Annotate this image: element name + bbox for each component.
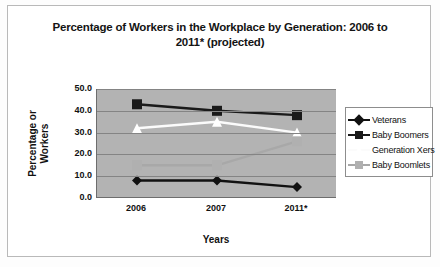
chart-legend: VeteransBaby BoomersGeneration XersBaby … — [345, 107, 433, 177]
legend-label: Baby Boomlets — [372, 160, 430, 170]
legend-item-baby-boomlets[interactable]: Baby Boomlets — [348, 157, 429, 172]
y-axis-title-line-1: Percentage or — [27, 96, 39, 192]
y-axis-tick-label: 30.0 — [56, 127, 92, 137]
x-axis-tick-labels: 200620072011* — [96, 203, 336, 219]
y-axis-tick-labels: 50.040.030.020.010.00.0 — [52, 89, 92, 198]
legend-item-veterans[interactable]: Veterans — [348, 112, 429, 127]
y-axis-tick-label: 10.0 — [56, 170, 92, 180]
series-veterans — [132, 176, 302, 193]
chart-title-line-1: Percentage of Workers in the Workplace b… — [42, 20, 398, 35]
y-axis-title-wrap: Percentage or Workers — [24, 98, 52, 194]
x-axis-tick-label: 2006 — [106, 203, 166, 213]
plot-area — [96, 89, 336, 198]
legend-item-generation-xers[interactable]: Generation Xers — [348, 142, 429, 157]
x-axis-title: Years — [96, 234, 336, 245]
data-point-marker — [132, 160, 142, 170]
gridline — [97, 89, 336, 90]
legend-symbol — [355, 131, 363, 139]
chart-title: Percentage of Workers in the Workplace b… — [42, 20, 398, 50]
gridline — [97, 111, 336, 112]
data-point-marker — [212, 160, 222, 170]
legend-label: Veterans — [372, 115, 406, 125]
gridline — [97, 176, 336, 177]
legend-marker-icon — [348, 114, 370, 125]
data-point-marker — [292, 182, 302, 192]
legend-marker-icon — [348, 159, 370, 170]
chart-frame: Percentage of Workers in the Workplace b… — [7, 5, 431, 257]
data-point-marker — [132, 99, 142, 109]
y-axis-tick-label: 20.0 — [56, 148, 92, 158]
x-axis-tick-label: 2007 — [186, 203, 246, 213]
series-baby-boomlets — [132, 136, 302, 170]
legend-label: Baby Boomers — [372, 130, 429, 140]
data-point-marker — [292, 136, 302, 146]
chart-title-line-2: 2011* (projected) — [42, 35, 398, 50]
legend-label: Generation Xers — [372, 145, 435, 155]
y-axis-tick-label: 0.0 — [56, 192, 92, 202]
series-layer — [97, 89, 337, 198]
y-axis-title-line-2: Workers — [38, 96, 50, 192]
legend-symbol — [353, 114, 364, 125]
legend-symbol — [355, 146, 363, 154]
gridline — [97, 154, 336, 155]
x-axis-tick-label: 2011* — [266, 203, 326, 213]
y-axis-tick-label: 50.0 — [56, 83, 92, 93]
legend-marker-icon — [348, 129, 370, 140]
legend-item-baby-boomers[interactable]: Baby Boomers — [348, 127, 429, 142]
y-axis-tick-label: 40.0 — [56, 105, 92, 115]
chart-page: Percentage of Workers in the Workplace b… — [0, 0, 440, 267]
legend-symbol — [355, 161, 363, 169]
series-generation-xers — [132, 117, 302, 138]
legend-marker-icon — [348, 144, 370, 155]
y-axis-title: Percentage or Workers — [27, 96, 50, 192]
gridline — [97, 133, 336, 134]
